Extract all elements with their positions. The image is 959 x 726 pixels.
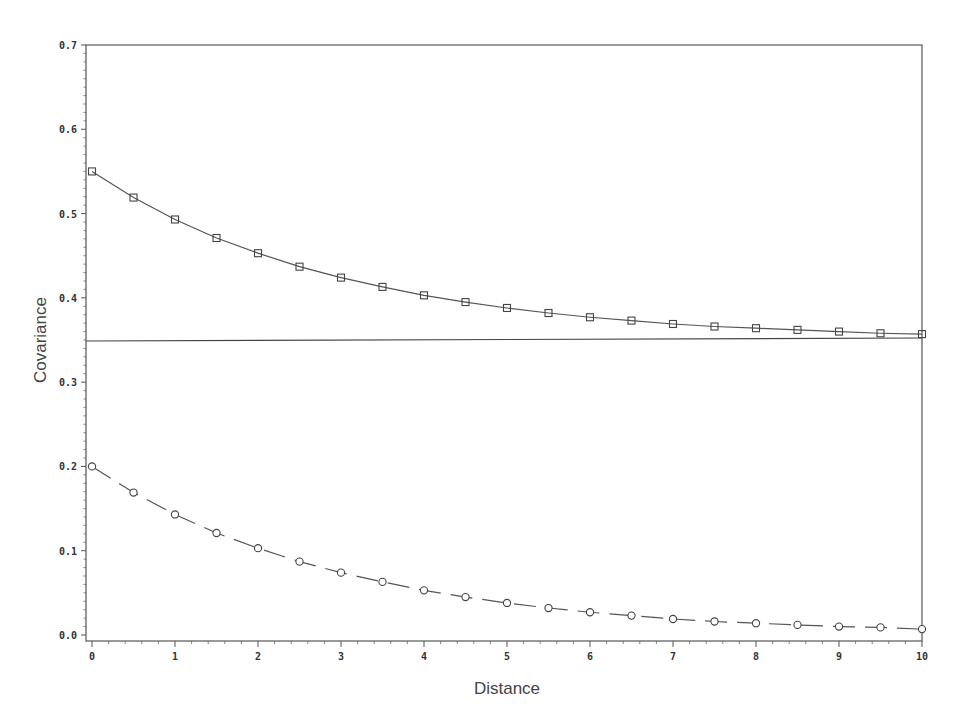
x-tick-label: 4 xyxy=(421,651,427,662)
x-axis: 012345678910 xyxy=(89,641,928,662)
circle-marker xyxy=(794,621,801,628)
circle-marker xyxy=(420,587,427,594)
circle-marker xyxy=(88,463,95,470)
y-tick-label: 0.6 xyxy=(59,124,77,135)
series-layer xyxy=(86,168,926,633)
x-tick-label: 5 xyxy=(504,651,510,662)
y-tick-label: 0.2 xyxy=(59,461,77,472)
circle-marker xyxy=(213,529,220,536)
circle-marker xyxy=(669,615,676,622)
x-tick-label: 8 xyxy=(753,651,759,662)
x-tick-label: 10 xyxy=(916,651,928,662)
circle-marker xyxy=(711,618,718,625)
x-tick-label: 9 xyxy=(836,651,842,662)
y-tick-label: 0.0 xyxy=(59,630,77,641)
upper-curve xyxy=(92,171,922,334)
circle-marker xyxy=(918,626,925,633)
covariance-chart: 0.00.10.20.30.40.50.60.7 012345678910 Di… xyxy=(0,0,959,726)
reference-line xyxy=(86,338,922,341)
y-tick-label: 0.7 xyxy=(59,40,77,51)
x-tick-label: 1 xyxy=(172,651,178,662)
circle-marker xyxy=(586,609,593,616)
circle-marker xyxy=(337,569,344,576)
circle-marker xyxy=(254,545,261,552)
x-tick-label: 2 xyxy=(255,651,261,662)
circle-marker xyxy=(877,624,884,631)
y-tick-label: 0.1 xyxy=(59,546,77,557)
plot-border xyxy=(86,45,922,641)
x-tick-label: 7 xyxy=(670,651,676,662)
circle-marker xyxy=(171,511,178,518)
circle-marker xyxy=(379,578,386,585)
y-axis: 0.00.10.20.30.40.50.60.7 xyxy=(59,40,86,641)
x-tick-label: 0 xyxy=(89,651,95,662)
circle-marker xyxy=(545,604,552,611)
circle-marker xyxy=(835,623,842,630)
circle-marker xyxy=(462,593,469,600)
circle-marker xyxy=(503,599,510,606)
plot-frame xyxy=(86,45,922,641)
y-axis-title: Covariance xyxy=(31,297,50,383)
y-tick-label: 0.3 xyxy=(59,377,77,388)
x-tick-label: 6 xyxy=(587,651,593,662)
circle-marker xyxy=(296,558,303,565)
circle-marker xyxy=(628,612,635,619)
x-tick-label: 3 xyxy=(338,651,344,662)
circle-marker xyxy=(130,489,137,496)
circle-marker xyxy=(752,620,759,627)
x-axis-title: Distance xyxy=(474,679,540,698)
y-tick-label: 0.5 xyxy=(59,209,77,220)
y-tick-label: 0.4 xyxy=(59,293,77,304)
